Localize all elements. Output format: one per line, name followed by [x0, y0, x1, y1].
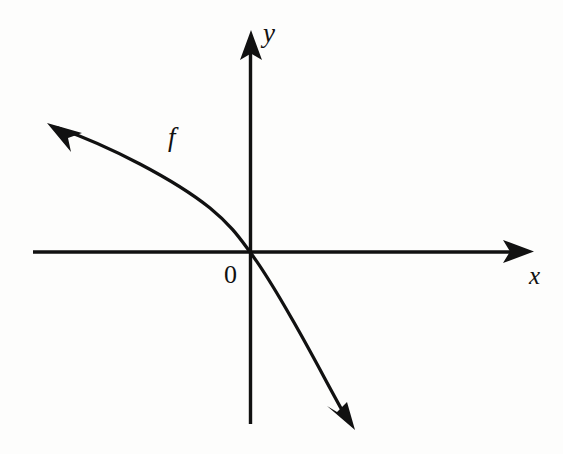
x-axis-label: x [529, 263, 540, 288]
coordinate-plane-svg [0, 0, 563, 454]
curve-left-arrowhead [47, 123, 82, 152]
origin-label: 0 [224, 262, 237, 288]
y-axis-label: y [263, 20, 275, 47]
function-curve-f [58, 128, 342, 410]
curve-label-f: f [168, 124, 176, 151]
math-graph-figure: y x f 0 [0, 0, 563, 454]
